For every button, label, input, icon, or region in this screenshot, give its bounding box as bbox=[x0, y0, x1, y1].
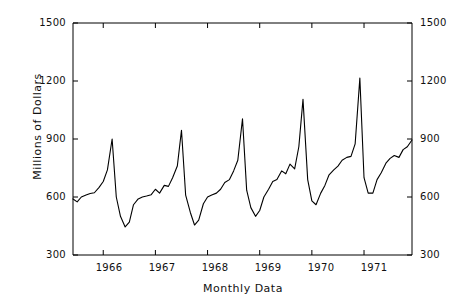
plot-frame bbox=[73, 23, 412, 255]
plot-svg bbox=[0, 0, 463, 306]
chart-figure: Millions of Dollars Monthly Data 1500 12… bbox=[0, 0, 463, 306]
axis-ticks bbox=[73, 23, 412, 255]
data-line-monthly-sales bbox=[73, 78, 412, 227]
